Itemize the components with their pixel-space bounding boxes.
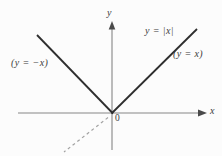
- y-axis-arrow-icon: [109, 21, 116, 30]
- right-branch-line: [112, 29, 198, 114]
- left-branch-line: [37, 35, 113, 114]
- absolute-value-function-figure: y = |x| (y = x) (y = −x) y x 0: [0, 0, 222, 156]
- right-branch-label: (y = x): [173, 49, 203, 59]
- plot-canvas: [0, 0, 222, 156]
- curve-label: y = |x|: [145, 26, 174, 36]
- origin-label: 0: [115, 114, 120, 124]
- x-axis-arrow-icon: [198, 110, 207, 117]
- x-axis-label: x: [210, 106, 215, 116]
- y-axis-label: y: [107, 8, 112, 18]
- left-branch-label: (y = −x): [11, 58, 48, 68]
- dashed-extension-line: [64, 118, 108, 153]
